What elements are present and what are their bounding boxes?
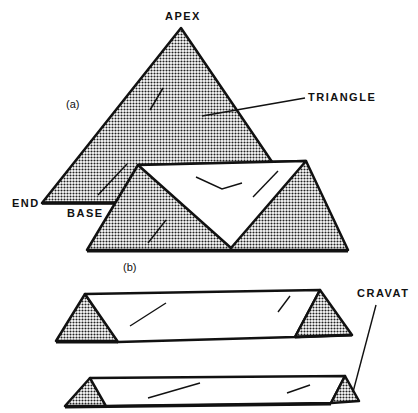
cravat-label: CRAVAT [357,287,409,299]
end-label: END [12,197,40,209]
bandage-diagram [0,0,418,413]
cravat-leader-line [353,305,376,392]
cravat-lower-figure [65,376,359,407]
cravat-upper-figure [56,290,352,342]
apex-label: APEX [165,10,201,22]
base-label: BASE [67,207,104,219]
subfigure-b-label: (b) [123,261,136,273]
triangle-label: TRIANGLE [308,91,376,103]
subfigure-a-label: (a) [66,98,79,110]
